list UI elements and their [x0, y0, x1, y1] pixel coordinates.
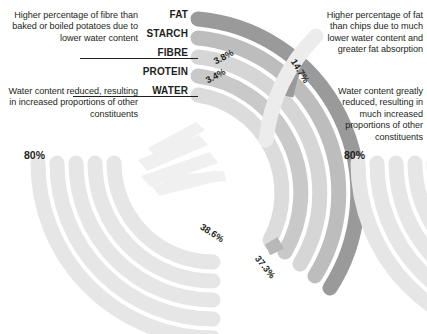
marker-water-left	[271, 241, 277, 252]
category-label-fibre: FIBRE	[108, 47, 188, 58]
potato-chips-illustration	[138, 122, 226, 196]
annotation-right-fat: Higher percentage of fat than chips due …	[322, 10, 423, 56]
annotation-left-fibre: Higher percentage of fibre than baked or…	[4, 10, 138, 44]
category-label-protein: PROTEIN	[108, 66, 188, 77]
axis-label-left-80: 80%	[24, 149, 45, 161]
annotation-right-water: Water content greatly reduced, resulting…	[318, 86, 423, 143]
leader-line-fibre	[80, 58, 198, 59]
annotation-left-water: Water content reduced, resulting in incr…	[4, 86, 138, 120]
radial-bar-chart-right	[266, 36, 427, 334]
axis-label-right-80: 80%	[344, 149, 365, 161]
infographic-canvas: FAT STARCH FIBRE PROTEIN WATER 3.8% 3.4%…	[0, 0, 427, 334]
